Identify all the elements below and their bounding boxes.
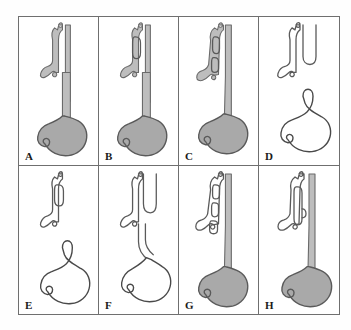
trachea-outline-e xyxy=(40,171,62,226)
panel-grid: A B C xyxy=(18,16,340,315)
trachea-outline-b xyxy=(120,23,142,78)
stomach-unshaded-f xyxy=(122,257,171,301)
panel-label-a: A xyxy=(25,151,33,162)
stomach-unshaded-e xyxy=(41,240,90,303)
anatomy-drawing-f xyxy=(99,166,178,315)
trachea-outline-h xyxy=(278,171,304,229)
stomach-shaded-a xyxy=(38,116,87,156)
trachea-outline-d xyxy=(278,23,300,78)
anatomy-drawing-d xyxy=(259,17,339,165)
esophagus-lower-f xyxy=(139,223,154,259)
esophagus-continuous-g xyxy=(224,173,231,269)
diagram-panel-c: C xyxy=(179,17,259,166)
anatomy-drawing-h xyxy=(259,166,339,315)
upper-pouch-d xyxy=(303,25,316,65)
diagram-panel-d: D xyxy=(259,17,339,166)
diagram-panel-b: B xyxy=(99,17,179,166)
diagram-panel-h: H xyxy=(259,166,339,315)
diagram-panel-a: A xyxy=(19,17,99,166)
stomach-unshaded-d xyxy=(281,89,331,152)
panel-label-h: H xyxy=(265,300,274,311)
tracheal-segment-g-2 xyxy=(212,202,219,216)
stomach-shaded-g xyxy=(199,266,248,306)
diagram-panel-e: E xyxy=(19,166,99,315)
trachea-outline-g xyxy=(196,171,224,229)
anatomy-drawing-c xyxy=(179,17,258,165)
tracheal-segment-g-1 xyxy=(213,184,220,198)
panel-label-e: E xyxy=(25,300,33,311)
panel-label-g: G xyxy=(185,300,194,311)
esophagus-lower-b xyxy=(142,72,150,120)
panel-label-b: B xyxy=(105,151,113,162)
stomach-shaded-c xyxy=(199,114,248,154)
stomach-shaded-h xyxy=(282,266,332,306)
anatomy-drawing-a xyxy=(19,17,98,165)
panel-label-f: F xyxy=(105,300,112,311)
panel-label-d: D xyxy=(265,151,273,162)
esophagus-continuous-h xyxy=(308,173,315,269)
esophagus-lower-a xyxy=(62,72,70,120)
esophagus-continuous-c xyxy=(224,25,231,116)
anatomy-drawing-g xyxy=(179,166,258,315)
diagram-panel-f: F xyxy=(99,166,179,315)
trachea-outline-a xyxy=(40,23,62,78)
panel-label-c: C xyxy=(185,151,193,162)
stomach-shaded-b xyxy=(118,116,167,156)
trachea-outline-f xyxy=(120,171,142,226)
tracheal-segment-h-1 xyxy=(294,186,302,224)
anatomy-drawing-b xyxy=(99,17,178,165)
upper-pouch-f xyxy=(143,173,156,212)
diagram-panel-g: G xyxy=(179,166,259,315)
figure-root: A B C xyxy=(0,0,351,330)
anatomy-drawing-e xyxy=(19,166,98,315)
